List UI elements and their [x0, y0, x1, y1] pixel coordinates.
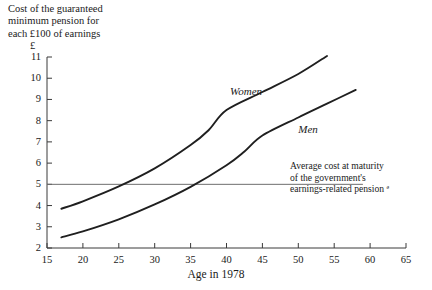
x-tick-label: 60	[357, 255, 383, 266]
y-tick-label: 6	[19, 158, 41, 169]
y-tick-label: 9	[19, 94, 41, 105]
y-tick-label: 3	[19, 222, 41, 233]
y-tick-label: 5	[19, 179, 41, 190]
chart-container: Cost of the guaranteed minimum pension f…	[0, 0, 432, 290]
x-tick-label: 50	[285, 255, 311, 266]
reference-line-annotation: Average cost at maturity of the governme…	[290, 160, 430, 195]
x-tick-label: 40	[214, 255, 240, 266]
x-tick-label: 25	[106, 255, 132, 266]
x-tick-label: 15	[34, 255, 60, 266]
x-tick-label: 65	[393, 255, 419, 266]
series-label-men: Men	[298, 123, 318, 135]
y-tick-label: 7	[19, 137, 41, 148]
y-tick-label: 10	[19, 73, 41, 84]
chart-title: Cost of the guaranteed minimum pension f…	[8, 3, 158, 40]
y-tick-label: 4	[19, 201, 41, 212]
x-tick-label: 55	[321, 255, 347, 266]
series-label-women: Women	[230, 85, 262, 97]
x-tick-label: 35	[178, 255, 204, 266]
y-axis-unit-label: £	[30, 40, 35, 51]
x-axis-ticks	[47, 243, 406, 248]
y-tick-label: 11	[19, 52, 41, 63]
x-tick-label: 45	[249, 255, 275, 266]
y-tick-label: 2	[19, 243, 41, 254]
y-axis-ticks	[47, 57, 52, 248]
plot-area	[0, 0, 432, 290]
x-axis-title: Age in 1978	[0, 268, 432, 280]
series-lines	[61, 56, 355, 237]
x-tick-label: 30	[142, 255, 168, 266]
x-tick-label: 20	[70, 255, 96, 266]
y-tick-label: 8	[19, 116, 41, 127]
